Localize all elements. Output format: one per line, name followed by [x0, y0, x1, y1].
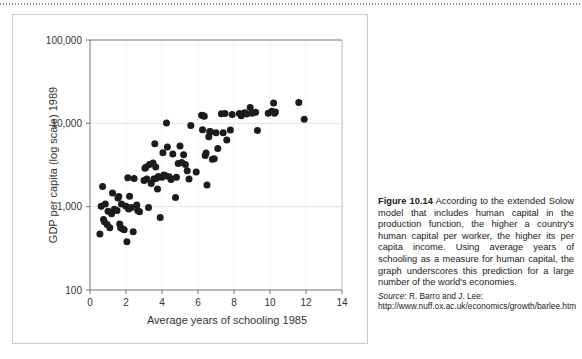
- x-tick-label: 10: [264, 297, 276, 308]
- x-axis-title: Average years of schooling 1985: [147, 314, 307, 326]
- x-tick-label: 0: [87, 297, 93, 308]
- figure-source: Source: R. Barro and J. Lee: http://www.…: [378, 291, 574, 312]
- x-tick-label: 2: [123, 297, 129, 308]
- x-tick-label: 12: [300, 297, 312, 308]
- data-point: [222, 110, 229, 117]
- data-point: [199, 126, 206, 133]
- y-tick-label: 100: [65, 285, 82, 296]
- data-point: [169, 150, 176, 157]
- data-point: [123, 238, 130, 245]
- data-point: [301, 116, 308, 123]
- figure-number: Figure 10.14: [378, 196, 433, 206]
- data-point: [131, 175, 138, 182]
- figure-panel: 1001,00010,000100,000 02468101214 Averag…: [12, 14, 368, 344]
- data-point: [203, 150, 210, 157]
- data-point: [193, 169, 200, 176]
- x-tick-label: 6: [195, 297, 201, 308]
- caption-body: According to the extended Solow model th…: [378, 196, 574, 287]
- data-point: [186, 175, 193, 182]
- data-point: [121, 226, 128, 233]
- data-point: [109, 189, 116, 196]
- data-point: [145, 204, 152, 211]
- x-tick-label: 4: [159, 297, 165, 308]
- top-dotted-rule: [0, 3, 582, 5]
- y-tick-label: 100,000: [46, 35, 83, 46]
- data-point: [211, 155, 218, 162]
- data-point: [201, 113, 208, 120]
- data-point: [177, 142, 184, 149]
- data-points: [96, 99, 307, 245]
- x-tick-label: 14: [336, 297, 348, 308]
- data-point: [96, 230, 103, 237]
- source-value: : R. Barro and J. Lee: http://www.nuff.o…: [378, 291, 576, 311]
- data-point: [172, 194, 179, 201]
- data-point: [136, 208, 143, 215]
- x-tick-label: 8: [231, 297, 237, 308]
- scatter-plot: 1001,00010,000100,000 02468101214 Averag…: [13, 15, 369, 345]
- data-point: [159, 149, 166, 156]
- data-point: [272, 108, 279, 115]
- data-point: [164, 143, 171, 150]
- data-point: [252, 109, 259, 116]
- data-point: [227, 127, 234, 134]
- y-axis-title: GDP per capita (log scale) 1989: [47, 87, 59, 243]
- data-point: [102, 200, 109, 207]
- axis-lines: [90, 40, 342, 290]
- y-tick-label: 1,000: [57, 201, 82, 212]
- data-point: [180, 151, 187, 158]
- data-point: [154, 185, 161, 192]
- caption-block: Figure 10.14 According to the extended S…: [378, 196, 574, 312]
- figure-caption: Figure 10.14 According to the extended S…: [378, 196, 574, 289]
- data-point: [295, 99, 302, 106]
- x-axis-tick-labels: 02468101214: [87, 297, 348, 308]
- data-point: [114, 207, 121, 214]
- data-point: [115, 193, 122, 200]
- gridlines: [90, 40, 342, 290]
- data-point: [173, 174, 180, 181]
- data-point: [157, 214, 164, 221]
- data-point: [130, 228, 137, 235]
- data-point: [106, 224, 113, 231]
- data-point: [163, 119, 170, 126]
- data-point: [99, 183, 106, 190]
- data-point: [204, 181, 211, 188]
- source-label: Source: [378, 291, 404, 301]
- data-point: [214, 145, 221, 152]
- data-point: [187, 122, 194, 129]
- data-point: [220, 129, 227, 136]
- data-point: [229, 111, 236, 118]
- data-point: [151, 140, 158, 147]
- data-point: [254, 127, 261, 134]
- data-point: [223, 137, 230, 144]
- data-point: [152, 163, 159, 170]
- data-point: [182, 161, 189, 168]
- data-point: [124, 174, 131, 181]
- data-point: [270, 100, 277, 107]
- data-point: [184, 167, 191, 174]
- data-point: [126, 193, 133, 200]
- axis-ticks: [86, 40, 342, 294]
- data-point: [213, 129, 220, 136]
